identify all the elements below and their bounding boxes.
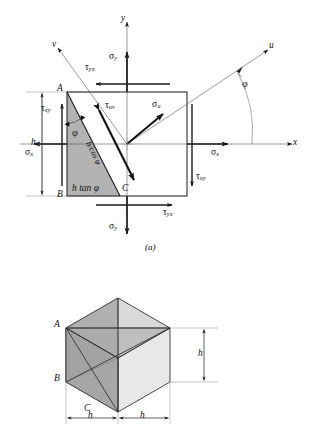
sigma-y-bottom-subscript: y: [114, 224, 117, 231]
point-a-label-panel-b: A: [54, 320, 60, 330]
point-b-label-panel-a: B: [57, 190, 63, 200]
sigma-x-right-subscript: x: [216, 150, 219, 157]
sigma-y-bottom-label: σy: [109, 222, 117, 232]
caption-a: (a): [145, 242, 156, 252]
dimension-h-tan-phi-label: h tan φ: [72, 184, 99, 194]
sigma-x-left-label: σx: [25, 148, 33, 158]
y-axis-label: y: [121, 14, 125, 24]
sigma-x-right-label: σx: [211, 148, 219, 158]
u-axis-label: u: [269, 41, 274, 51]
dimension-h-bottom-panel-b: h: [140, 411, 145, 421]
stress-transformation-figure: [0, 0, 310, 431]
tau-yx-bottom-label: τyx: [163, 208, 173, 218]
phi-arc-arrowhead: [237, 67, 243, 74]
tau-uv-label: τuv: [105, 101, 115, 111]
sigma-y-top-subscript: y: [114, 54, 117, 61]
tau-xy-right-subscript: xy: [200, 174, 206, 181]
dimension-h-left-panel-b: h: [88, 411, 93, 421]
dimension-h-right-panel-b: h: [198, 349, 203, 359]
point-a-label-panel-a: A: [57, 84, 63, 94]
x-axis-label: x: [293, 138, 297, 148]
point-b-label-panel-b: B: [54, 374, 60, 384]
tau-yx-top-subscript: yx: [89, 65, 95, 72]
sigma-u-arrow: [127, 114, 163, 144]
panel-a-group: [20, 22, 292, 234]
tau-xy-right-label: τxy: [196, 172, 206, 182]
phi-angle-label-outer: φ: [242, 79, 248, 89]
tau-uv-subscript: uv: [109, 103, 115, 110]
sigma-u-subscript: u: [157, 102, 160, 109]
tau-yx-top-label: τyx: [85, 63, 95, 73]
sigma-u-label: σu: [152, 100, 160, 110]
tau-xy-left-label: τxy: [41, 104, 51, 114]
point-c-label-panel-a: C: [122, 184, 128, 194]
dimension-h-label-panel-a: h: [31, 138, 36, 148]
tau-xy-left-subscript: xy: [45, 106, 51, 113]
phi-angle-label-inner: φ: [72, 128, 78, 138]
sigma-x-left-subscript: x: [30, 150, 33, 157]
u-axis: [127, 50, 268, 144]
sigma-y-top-label: σy: [109, 52, 117, 62]
v-axis-label: v: [52, 40, 56, 50]
tau-yx-bottom-subscript: yx: [167, 210, 173, 217]
